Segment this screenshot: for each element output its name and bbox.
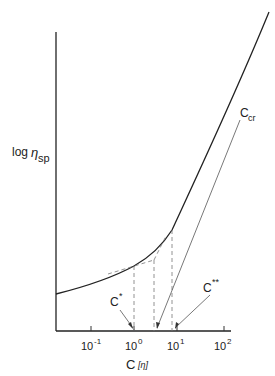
x-axis-label-c: C xyxy=(126,357,135,372)
y-axis-label-sub: sp xyxy=(38,152,50,164)
arrow-heads xyxy=(128,322,179,329)
x-tick-labels: 10 -1 10 0 10 1 10 2 xyxy=(81,337,232,352)
svg-text:1: 1 xyxy=(180,337,185,346)
y-axis-label-log: log xyxy=(12,145,28,159)
c-star-sup: * xyxy=(119,291,123,301)
svg-text:10: 10 xyxy=(167,340,179,352)
c-2star-label: C xyxy=(203,281,212,295)
chart: log η sp 10 -1 10 0 10 1 10 2 C [η] C * … xyxy=(0,0,275,376)
svg-text:10: 10 xyxy=(81,340,93,352)
svg-text:2: 2 xyxy=(227,337,232,346)
annotation-arrows xyxy=(120,120,240,328)
c-2star-sup: ** xyxy=(212,277,220,287)
x-axis-label-eta: [η] xyxy=(137,360,148,370)
viscosity-curve xyxy=(56,12,269,294)
chart-svg: log η sp 10 -1 10 0 10 1 10 2 C [η] C * … xyxy=(0,0,275,376)
svg-text:10: 10 xyxy=(214,340,226,352)
svg-text:-1: -1 xyxy=(94,337,102,346)
construction-lines xyxy=(108,230,172,331)
c-cr-sub: cr xyxy=(248,113,256,123)
svg-text:10: 10 xyxy=(125,340,137,352)
c-star-label: C xyxy=(110,295,119,309)
svg-text:0: 0 xyxy=(138,337,143,346)
